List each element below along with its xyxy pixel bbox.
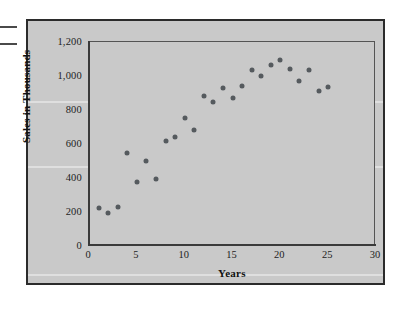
scatter-point <box>182 116 187 121</box>
scatter-point <box>297 78 302 83</box>
scatter-point <box>201 94 206 99</box>
x-axis-tick-labels: 051015202530 <box>28 249 383 265</box>
x-axis-tick-label: 15 <box>226 249 237 260</box>
x-axis-tick-label: 0 <box>85 249 90 260</box>
figure-root: 02004006008001,0001,200 Sales in Thousan… <box>0 0 415 311</box>
y-axis-tick-label: 400 <box>66 172 82 183</box>
plot-area <box>88 41 375 245</box>
y-axis-tick-labels: 02004006008001,0001,200 <box>28 21 82 283</box>
y-axis-tick-label: 1,200 <box>57 36 82 47</box>
scatter-point <box>153 176 158 181</box>
x-axis-tick-label: 5 <box>133 249 138 260</box>
scatter-point <box>230 95 235 100</box>
page-edge-mark-bottom <box>0 43 17 45</box>
scatter-point <box>316 89 321 94</box>
scatter-point <box>163 138 168 143</box>
y-axis-tick-label: 200 <box>66 206 82 217</box>
x-axis-tick-label: 20 <box>274 249 285 260</box>
scatter-point <box>278 57 283 62</box>
scatter-point <box>211 100 216 105</box>
x-axis-tick-label: 10 <box>178 249 189 260</box>
y-axis-tick-label: 600 <box>66 138 82 149</box>
scatter-point <box>173 135 178 140</box>
chart-figure: 02004006008001,0001,200 Sales in Thousan… <box>26 19 385 285</box>
scatter-point <box>134 179 139 184</box>
scatter-point <box>326 84 331 89</box>
scatter-point <box>287 67 292 72</box>
page-edge-mark-top <box>0 26 17 28</box>
scatter-point <box>192 128 197 133</box>
scatter-point <box>307 67 312 72</box>
scatter-point <box>249 68 254 73</box>
scatter-point <box>96 206 101 211</box>
scatter-point <box>240 84 245 89</box>
scatter-point <box>268 63 273 68</box>
x-axis-tick-label: 25 <box>322 249 333 260</box>
scatter-point <box>125 150 130 155</box>
y-axis-tick-label: 800 <box>66 104 82 115</box>
scatter-point <box>115 204 120 209</box>
scatter-points-layer <box>89 42 374 244</box>
x-axis-title: Years <box>88 267 376 279</box>
scatter-point <box>259 74 264 79</box>
y-axis-line <box>88 41 90 246</box>
scatter-point <box>220 85 225 90</box>
y-axis-tick-label: 1,000 <box>57 70 82 81</box>
y-axis-title: Sales in Thousands <box>20 50 32 143</box>
scatter-point <box>144 159 149 164</box>
scatter-point <box>106 211 111 216</box>
x-axis-tick-label: 30 <box>370 249 381 260</box>
x-axis-line <box>88 244 376 246</box>
